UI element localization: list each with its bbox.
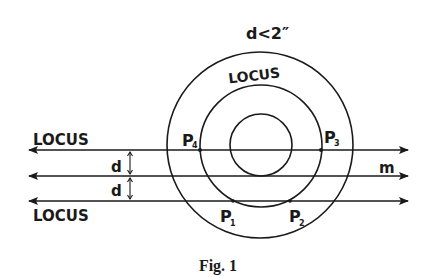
middle-line-label: m (379, 159, 395, 177)
circle-locus-label: LOCUS (227, 64, 281, 86)
point-p1-dot (231, 199, 235, 203)
point-label-p3: P 3 (324, 128, 340, 148)
figure-caption: Fig. 1 (199, 257, 237, 275)
top-line-label: LOCUS (33, 131, 89, 149)
point-p2-dot (288, 199, 292, 203)
point-p3-dot (319, 148, 323, 152)
point-subscript: 4 (192, 141, 198, 150)
distance-marker-lower (128, 178, 133, 199)
point-p4-dot (198, 148, 202, 152)
point-label-p2: P 2 (289, 207, 305, 228)
point-subscript: 3 (334, 139, 340, 148)
point-subscript: 2 (299, 219, 305, 228)
point-label-p1: P 1 (220, 207, 236, 228)
point-subscript: 1 (230, 219, 236, 228)
point-label-p4: P 4 (182, 131, 198, 150)
distance-label-upper: d (111, 158, 122, 176)
bottom-line-label: LOCUS (33, 207, 89, 225)
distance-marker-upper (128, 152, 133, 174)
inner-circle (230, 114, 292, 176)
condition-label: d<2″ (246, 24, 289, 43)
locus-diagram: d<2″ LOCUS LOCUS LOCUS m d d P 4 P 3 P 1… (0, 0, 436, 277)
locus-circle (200, 85, 322, 207)
distance-label-lower: d (111, 182, 122, 200)
